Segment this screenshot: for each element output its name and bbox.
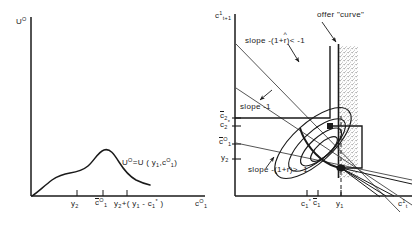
budget-line-slope-steep: [236, 44, 400, 212]
offer-curve-pointer: [322, 22, 336, 42]
right-panel-y-ticks: [232, 118, 241, 159]
annotation-slope-steep: slope -(1+r)< -1: [245, 37, 305, 45]
left-tick-label-y2: y2: [71, 200, 79, 208]
annotation-slope-unit: slope -1: [240, 103, 271, 111]
left-tick-label-y2-plus: y2+( y1 - c1* ): [114, 200, 163, 208]
offer-curve-label: offer "curve": [317, 11, 364, 19]
right-y-tick-label-c1bar0: cO1: [219, 138, 231, 146]
left-panel-ticks: [77, 190, 127, 196]
figure-canvas: UO cO1 UO=U ( y1,cO1) y2 cO1 y2+( y1 - c…: [0, 0, 420, 230]
right-y-tick-label-c2star: c2*: [220, 121, 230, 129]
slope-unit-pointer: [260, 90, 272, 100]
right-x-axis-label: c1t: [398, 200, 408, 208]
left-panel-axes: [31, 17, 205, 196]
right-x-tick-label-c1star: c1*: [301, 200, 311, 208]
right-y-tick-label-y2: y2: [221, 154, 229, 162]
left-y-axis-label: UO: [16, 18, 27, 26]
slope-steep-pointer: [288, 44, 299, 62]
left-tick-label-c1bar: cO1: [95, 199, 107, 207]
right-x-tick-label-y1: y1: [336, 200, 344, 208]
optimum-point-marker: [327, 123, 333, 129]
right-y-tick-label-c2bar: c2: [220, 112, 228, 120]
figure-vector-layer: [0, 0, 420, 230]
left-x-axis-label: cO1: [195, 200, 207, 208]
annotation-slope-shallow: slope -(1+r)> -1: [248, 166, 308, 174]
right-x-tick-label-c1bar: c1: [313, 199, 321, 207]
right-y-axis-label: c1t+1: [215, 12, 231, 20]
left-curve-equation-label: UO=U ( y1,cO1): [122, 159, 177, 167]
endowment-point-marker: [336, 164, 345, 171]
right-panel-x-ticks: [307, 190, 341, 196]
